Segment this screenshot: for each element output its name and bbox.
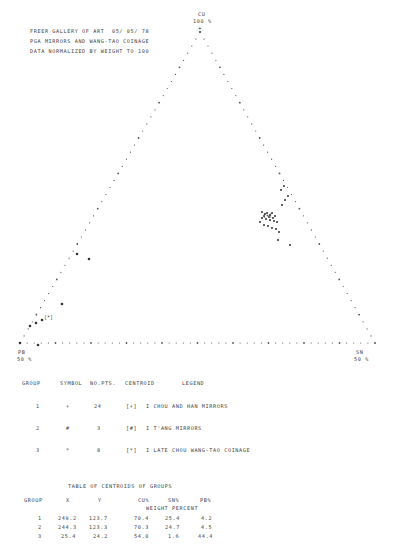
ct-row-3-pb: 44.4 — [198, 533, 213, 539]
legend-header-centroid: CENTROID — [125, 380, 155, 386]
legend-row-2-npts: 3 — [97, 425, 101, 431]
legend-row-1-symbol: + — [66, 403, 70, 409]
ct-row-1-x: 249.2 — [58, 515, 77, 521]
triangle-outline: + — [19, 24, 376, 344]
ct-row-3-group: 3 — [38, 533, 42, 539]
ct-header-x: X — [66, 497, 70, 503]
ct-row-3-x: 25.4 — [61, 533, 76, 539]
ct-row-2-group: 2 — [38, 524, 42, 530]
legend-header-npts: NO.PTS. — [90, 380, 116, 386]
ct-header-pb: PB% — [200, 497, 211, 503]
legend-header-symbol: SYMBOL — [60, 380, 82, 386]
legend-header-legend: LEGEND — [182, 380, 204, 386]
ct-row-3-y: 24.2 — [93, 533, 108, 539]
ct-row-1-sn: 25.4 — [165, 515, 180, 521]
ct-row-2-sn: 24.7 — [165, 524, 180, 530]
ct-header-sn: SN% — [168, 497, 179, 503]
data-points: [*][+] — [19, 185, 291, 346]
ct-header-group: GROUP — [24, 497, 43, 503]
svg-text:+: + — [198, 24, 202, 31]
ct-row-3-sn: 1.6 — [168, 533, 179, 539]
legend-row-2-label: I T'ANG MIRRORS — [146, 425, 202, 431]
legend-row-3-symbol: * — [66, 447, 70, 453]
legend-row-3-label: I LATE CHOU WANG-TAO COINAGE — [146, 447, 250, 453]
ct-row-2-cu: 70.3 — [134, 524, 149, 530]
ct-row-2-y: 123.3 — [89, 524, 108, 530]
ct-row-1-group: 1 — [38, 515, 42, 521]
svg-text:[+]: [+] — [263, 212, 272, 218]
legend-row-1-label: I CHOU AND HAN MIRRORS — [146, 403, 228, 409]
legend-row-2-group: 2 — [36, 425, 40, 431]
ct-subheader: WEIGHT PERCENT — [146, 505, 198, 511]
ct-row-1-pb: 4.2 — [201, 515, 212, 521]
ct-row-2-x: 244.3 — [58, 524, 77, 530]
ct-row-1-cu: 70.4 — [134, 515, 149, 521]
ct-row-3-cu: 54.0 — [134, 533, 149, 539]
ct-header-cu: CU% — [138, 497, 149, 503]
ct-row-1-y: 123.7 — [89, 515, 108, 521]
ct-row-2-pb: 4.5 — [201, 524, 212, 530]
centroid-table-title: TABLE OF CENTROIDS OF GROUPS — [68, 483, 172, 489]
legend-row-3-npts: 8 — [97, 447, 101, 453]
legend-row-2-centroid: [#] — [126, 425, 137, 431]
legend-row-1-npts: 24 — [94, 403, 101, 409]
ct-header-y: Y — [98, 497, 102, 503]
legend-header-group: GROUP — [22, 380, 41, 386]
legend-row-1-centroid: [+] — [126, 403, 137, 409]
legend-row-2-symbol: # — [66, 425, 70, 431]
svg-text:[*]: [*] — [44, 314, 53, 320]
legend-row-3-group: 3 — [36, 447, 40, 453]
ternary-plot: + [*][+] — [0, 0, 396, 370]
legend-row-1-group: 1 — [36, 403, 40, 409]
legend-row-3-centroid: [*] — [126, 447, 137, 453]
